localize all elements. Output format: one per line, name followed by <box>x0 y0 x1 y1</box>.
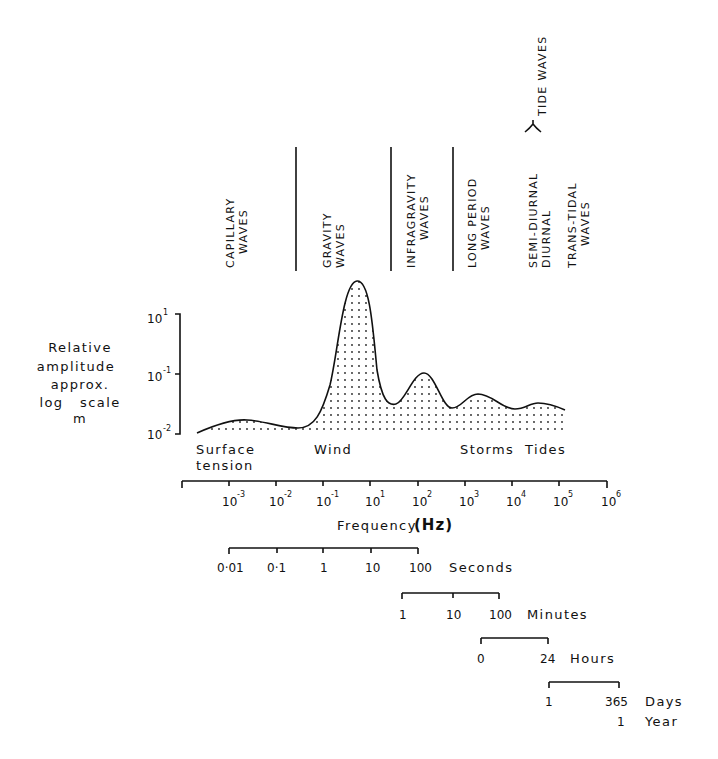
svg-text:0: 0 <box>477 652 485 666</box>
svg-text:1: 1 <box>320 561 328 575</box>
band-label-trans-tidal: TRANS-TIDAL WAVES <box>566 182 592 269</box>
svg-text:6: 6 <box>616 490 621 499</box>
svg-text:10: 10 <box>553 495 568 509</box>
svg-text:1: 1 <box>399 608 407 622</box>
svg-text:10: 10 <box>147 370 162 384</box>
minutes-scale-labels: 1 10 100 Minutes <box>399 607 588 622</box>
svg-text:WAVES: WAVES <box>579 201 592 246</box>
svg-text:INFRAGRAVITY: INFRAGRAVITY <box>405 173 418 268</box>
svg-text:GRAVITY: GRAVITY <box>321 212 334 268</box>
forcing-surface: Surface <box>196 442 255 457</box>
band-label-capillary: CAPILLARY WAVES <box>224 198 250 268</box>
hours-scale-bracket <box>481 638 548 644</box>
svg-text:-2: -2 <box>284 490 292 499</box>
forcing-tides: Tides <box>524 442 566 457</box>
svg-text:100: 100 <box>489 608 512 622</box>
svg-text:10: 10 <box>601 495 616 509</box>
forcing-storms: Storms <box>460 442 514 457</box>
svg-text:1: 1 <box>380 490 385 499</box>
svg-text:10: 10 <box>222 495 237 509</box>
svg-text:TRANS-TIDAL: TRANS-TIDAL <box>566 182 579 269</box>
svg-text:WAVES: WAVES <box>334 223 347 268</box>
y-tick-10-minus1: 10 -1 <box>147 366 171 384</box>
svg-text:Hours: Hours <box>570 651 615 666</box>
svg-text:CAPILLARY: CAPILLARY <box>224 198 237 268</box>
svg-text:Minutes: Minutes <box>527 607 588 622</box>
spectrum-fill <box>197 281 565 433</box>
svg-text:365: 365 <box>605 695 628 709</box>
svg-text:log scale: log scale <box>39 395 120 410</box>
seconds-scale-labels: 0·01 0·1 1 10 100 Seconds <box>217 560 513 575</box>
svg-text:10: 10 <box>412 495 427 509</box>
y-axis <box>175 314 180 434</box>
forcing-tension: tension <box>196 458 254 473</box>
days-scale-bracket <box>549 682 619 688</box>
y-tick-10-minus2: 10 -2 <box>147 424 171 442</box>
band-label-gravity: GRAVITY WAVES <box>321 212 347 268</box>
svg-text:10: 10 <box>365 495 380 509</box>
frequency-axis-title: Frequency <box>337 518 417 533</box>
svg-text:WAVES: WAVES <box>418 195 431 240</box>
svg-text:1: 1 <box>163 308 168 317</box>
svg-text:WAVES: WAVES <box>479 205 492 250</box>
svg-text:Relative: Relative <box>48 340 112 355</box>
svg-text:10: 10 <box>269 495 284 509</box>
svg-text:SEMI-DIURNAL: SEMI-DIURNAL <box>527 172 540 268</box>
svg-text:TIDE WAVES: TIDE WAVES <box>536 36 549 117</box>
band-label-long-period: LONG PERIOD WAVES <box>466 177 492 268</box>
svg-text:approx.: approx. <box>51 377 110 392</box>
svg-text:5: 5 <box>568 490 573 499</box>
svg-text:10: 10 <box>147 428 162 442</box>
band-label-infragravity: INFRAGRAVITY WAVES <box>405 173 431 268</box>
svg-text:LONG PERIOD: LONG PERIOD <box>466 177 479 268</box>
svg-text:Year: Year <box>644 714 678 729</box>
svg-text:10: 10 <box>365 561 380 575</box>
svg-text:4: 4 <box>521 490 526 499</box>
svg-text:DIURNAL: DIURNAL <box>540 210 553 268</box>
frequency-tick-labels: 10-3 10-2 10-1 101 102 103 104 105 106 <box>222 490 621 509</box>
svg-text:-1: -1 <box>163 366 171 375</box>
svg-text:1: 1 <box>617 715 625 729</box>
hours-scale-labels: 0 24 Hours <box>477 651 615 666</box>
svg-text:10: 10 <box>459 495 474 509</box>
tide-waves-label: TIDE WAVES <box>536 36 549 117</box>
svg-text:1: 1 <box>545 695 553 709</box>
days-scale-labels: 1 365 Days 1 Year <box>545 694 683 729</box>
svg-text:WAVES: WAVES <box>237 209 250 254</box>
svg-text:100: 100 <box>409 561 432 575</box>
svg-text:-3: -3 <box>237 490 245 499</box>
svg-text:2: 2 <box>427 490 432 499</box>
svg-text:0·1: 0·1 <box>267 561 286 575</box>
svg-text:Seconds: Seconds <box>449 560 513 575</box>
svg-text:Days: Days <box>645 694 683 709</box>
svg-text:10: 10 <box>446 608 461 622</box>
svg-text:m: m <box>73 411 87 426</box>
y-tick-10-1: 10 1 <box>147 308 168 326</box>
tide-waves-brace-icon <box>525 120 541 132</box>
frequency-axis-unit: (Hz) <box>414 516 453 534</box>
y-axis-title: Relative amplitude approx. log scale m <box>37 340 121 426</box>
svg-text:-1: -1 <box>331 490 339 499</box>
seconds-scale-bracket <box>229 548 418 554</box>
frequency-axis <box>182 481 607 488</box>
minutes-scale-bracket <box>402 593 499 599</box>
band-label-semi-diurnal: SEMI-DIURNAL DIURNAL <box>527 172 553 268</box>
forcing-wind: Wind <box>314 442 352 457</box>
svg-text:0·01: 0·01 <box>217 561 244 575</box>
svg-text:10: 10 <box>506 495 521 509</box>
svg-text:10: 10 <box>316 495 331 509</box>
wave-spectrum-diagram: CAPILLARY WAVES GRAVITY WAVES INFRAGRAVI… <box>0 0 718 759</box>
svg-text:24: 24 <box>540 652 555 666</box>
svg-text:amplitude: amplitude <box>37 359 115 374</box>
svg-text:-2: -2 <box>163 424 171 433</box>
svg-text:3: 3 <box>474 490 479 499</box>
svg-text:10: 10 <box>147 312 162 326</box>
